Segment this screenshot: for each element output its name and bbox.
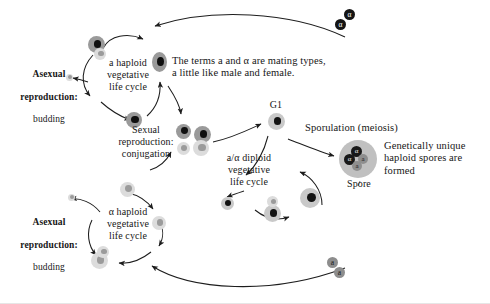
arrow-conjugation-to-g1	[213, 124, 261, 142]
cell-alpha-small-bud	[68, 194, 75, 201]
cell-alpha-bud-bottom	[97, 246, 109, 258]
a-haploid-cycle-label: a haploid vegetative life cycle	[97, 57, 159, 92]
spores-note: Genetically unique haploid spores are fo…	[384, 140, 490, 177]
free-spore-a-upper: a	[327, 257, 338, 268]
cell-diploid-right	[300, 188, 320, 208]
spore-a-2: a	[352, 161, 362, 171]
arrow-a-cycle-top	[104, 36, 143, 47]
arrow-alpha-cycle-bottom	[119, 252, 151, 263]
free-spore-a-lower: a	[334, 267, 345, 278]
alpha-haploid-cycle-label: α haploid vegetative life cycle	[96, 206, 160, 241]
asexual-bottom-line3: budding	[8, 262, 90, 273]
asexual-bottom-line1: Asexual	[8, 217, 90, 228]
sporulation-label: Sporulation (meiosis)	[305, 122, 435, 134]
asexual-reproduction-top-label: Asexual reproduction: budding	[8, 58, 90, 136]
g1-label: G1	[261, 99, 291, 111]
arrow-diploid-budding	[227, 191, 244, 197]
mating-types-note: The terms a and α are mating types, a li…	[172, 55, 352, 80]
arrow-a-to-conjugation	[168, 86, 181, 114]
asexual-top-line1: Asexual	[8, 69, 90, 80]
diploid-cycle-label: a/α diploid vegetative life cycle	[215, 152, 283, 187]
asexual-reproduction-bottom-label: Asexual reproduction: budding	[8, 206, 90, 284]
asexual-top-line3: budding	[8, 114, 90, 125]
life-cycle-diagram: α α a a α α a a Asexual reproduction: bu…	[0, 0, 490, 304]
arrow-sporulation	[288, 139, 334, 156]
asexual-top-line2: reproduction:	[8, 92, 90, 103]
cell-diploid-bud-small	[267, 196, 278, 207]
cell-diploid-g1	[268, 113, 285, 130]
arrow-alpha-spores-to-cycle	[155, 15, 345, 37]
spore-ascus: α α a a	[339, 140, 377, 178]
cell-diploid-budding-pair	[264, 205, 281, 222]
cell-conjugation-alpha-right	[193, 140, 209, 156]
spore-label: Spore	[341, 178, 377, 190]
cell-alpha-top	[120, 182, 135, 197]
arrow-a-spores-to-cycle	[152, 266, 345, 287]
asexual-bottom-line2: reproduction:	[8, 240, 90, 251]
cell-diploid-bud-left	[221, 197, 234, 210]
free-spore-alpha-lower: α	[335, 19, 346, 30]
sexual-reproduction-label: Sexual reproduction: conjugation	[112, 124, 180, 159]
free-spore-alpha-upper: α	[344, 9, 355, 20]
